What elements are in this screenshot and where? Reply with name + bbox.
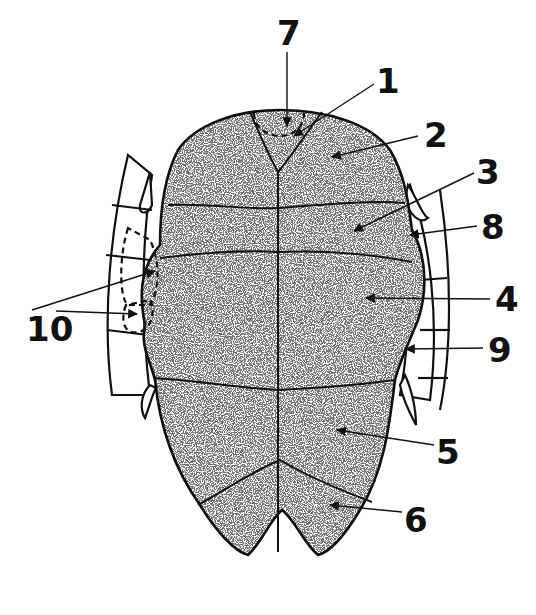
label-7: 7 <box>277 16 301 50</box>
label-5: 5 <box>436 435 460 469</box>
plastron-diagram: 7 1 2 3 8 4 9 5 6 10 <box>0 0 536 615</box>
label-6: 6 <box>404 503 428 537</box>
plastron-drawing <box>0 0 536 615</box>
label-9: 9 <box>488 333 512 367</box>
label-3: 3 <box>476 155 500 189</box>
label-10: 10 <box>26 312 73 346</box>
label-2: 2 <box>424 118 448 152</box>
label-8: 8 <box>481 210 505 244</box>
label-1: 1 <box>376 64 400 98</box>
label-4: 4 <box>495 282 519 316</box>
